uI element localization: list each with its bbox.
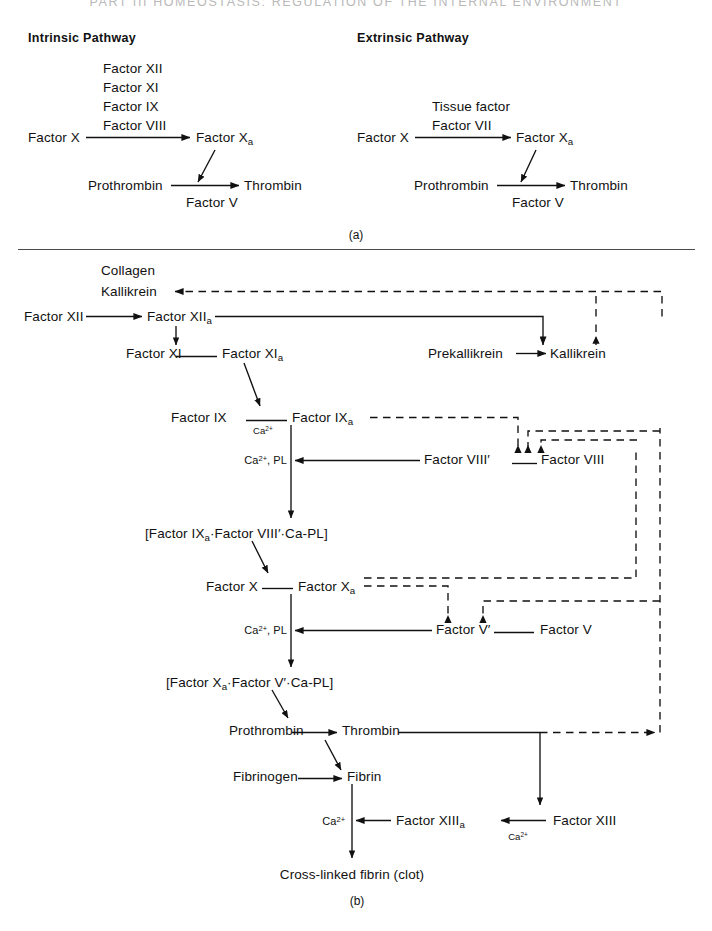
complex-ixa-viii: [Factor IXa·Factor VIII′·Ca-PL] <box>145 527 328 542</box>
thrombin: Thrombin <box>342 724 400 738</box>
extrinsic-cofactor-1: Tissue factor <box>432 100 510 114</box>
ca-pl-label-ix-complex: Ca2+, PL <box>244 455 287 466</box>
extrinsic-cofactor-2: Factor VII <box>432 119 492 133</box>
collagen-label: Collagen <box>101 264 155 278</box>
complex-xa-v: [Factor Xa·Factor V′·Ca-PL] <box>166 676 333 691</box>
intrinsic-prothrombin: Prothrombin <box>88 179 163 193</box>
kallikrein: Kallikrein <box>550 347 606 361</box>
factor-viii: Factor VIII <box>541 453 604 467</box>
intrinsic-factor-x: Factor X <box>28 131 80 145</box>
factor-xa: Factor Xa <box>298 580 355 595</box>
ca-label-factor-ix: Ca2+ <box>253 426 273 436</box>
extrinsic-thrombin: Thrombin <box>570 179 628 193</box>
intrinsic-cofactor-1: Factor XII <box>103 62 163 76</box>
factor-ix: Factor IX <box>171 411 227 425</box>
ca-label-factor-xiii: Ca2+ <box>508 832 528 842</box>
ca-label-fibrin: Ca2+ <box>322 816 345 827</box>
factor-viii-prime: Factor VIII′ <box>424 453 490 467</box>
factor-xiiia: Factor XIIIa <box>396 814 465 829</box>
intrinsic-factor-v: Factor V <box>186 196 238 210</box>
panel-divider-rule <box>18 249 695 250</box>
extrinsic-factor-xa: Factor Xa <box>516 131 573 146</box>
factor-ixa: Factor IXa <box>292 411 353 426</box>
factor-xi: Factor XI <box>126 347 182 361</box>
ca-pl-label-x-complex: Ca2+, PL <box>244 625 287 636</box>
figure-page: PART III HOMEOSTASIS: REGULATION OF THE … <box>0 0 712 931</box>
factor-xia: Factor XIa <box>222 347 283 362</box>
figure-part-a-label: (a) <box>349 228 364 242</box>
factor-v: Factor V <box>540 623 592 637</box>
extrinsic-factor-x: Factor X <box>357 131 409 145</box>
fibrinogen: Fibrinogen <box>233 770 298 784</box>
intrinsic-thrombin: Thrombin <box>244 179 302 193</box>
intrinsic-factor-xa: Factor Xa <box>196 131 253 146</box>
fibrin: Fibrin <box>347 770 381 784</box>
prekallikrein: Prekallikrein <box>428 347 503 361</box>
kallikrein-activator-label: Kallikrein <box>101 285 157 299</box>
intrinsic-cofactor-3: Factor IX <box>103 100 159 114</box>
factor-xii: Factor XII <box>24 310 84 324</box>
factor-x: Factor X <box>206 580 258 594</box>
extrinsic-pathway-heading: Extrinsic Pathway <box>357 31 469 45</box>
running-head: PART III HOMEOSTASIS: REGULATION OF THE … <box>0 0 712 9</box>
intrinsic-pathway-heading: Intrinsic Pathway <box>28 31 136 45</box>
cascade-arrows <box>0 0 712 931</box>
factor-v-prime: Factor V′ <box>436 623 490 637</box>
cross-linked-fibrin: Cross-linked fibrin (clot) <box>280 868 424 882</box>
intrinsic-cofactor-2: Factor XI <box>103 81 159 95</box>
extrinsic-factor-v: Factor V <box>512 196 564 210</box>
prothrombin: Prothrombin <box>229 724 304 738</box>
extrinsic-prothrombin: Prothrombin <box>414 179 489 193</box>
intrinsic-cofactor-4: Factor VIII <box>103 119 166 133</box>
factor-xiia: Factor XIIa <box>147 310 212 325</box>
factor-xiii: Factor XIII <box>553 814 616 828</box>
figure-part-b-label: (b) <box>350 894 365 908</box>
